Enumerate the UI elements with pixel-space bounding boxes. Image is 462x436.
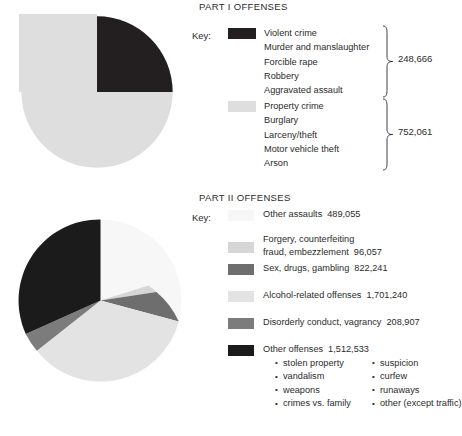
part-one-key-label: Key: [192, 30, 211, 41]
part-one-pie-svg [19, 14, 175, 170]
legend-value: 208,907 [381, 317, 419, 327]
part-two-offenses-panel: PART II OFFENSES Key: Other assaults489,… [0, 190, 456, 436]
legend-item: Burglary [264, 113, 382, 127]
legend-swatch-alcohol-related [228, 291, 254, 302]
legend-items-property: Property crime Burglary Larceny/theft Mo… [264, 99, 382, 170]
part-one-title: PART I OFFENSES [199, 1, 288, 12]
legend-row-disorderly-conduct: Disorderly conduct, vagrancy208,907 [228, 316, 456, 343]
legend-value: 96,057 [349, 247, 382, 257]
legend-item: Larceny/theft [264, 128, 382, 142]
legend-items-violent: Violent crime Murder and manslaughter Fo… [264, 26, 382, 97]
legend-label-line1: Forgery, counterfeiting [263, 234, 354, 244]
sublist-item: curfew [372, 370, 462, 384]
legend-item: Arson [264, 156, 382, 170]
part-one-pie-chart [19, 14, 175, 170]
legend-swatch-property-crime [228, 101, 256, 112]
legend-total-violent: 248,666 [398, 53, 432, 64]
legend-item: Property crime [264, 99, 382, 113]
legend-row-other-offenses: Other offenses1,512,533 stolen property … [228, 343, 456, 411]
legend-swatch-disorderly-conduct [228, 318, 254, 329]
legend-label-line2: fraud, embezzlement [263, 247, 349, 257]
legend-swatch-violent-crime [228, 28, 256, 39]
legend-value: 1,512,533 [323, 344, 369, 354]
legend-swatch-forgery [228, 242, 254, 253]
legend-row-other-assaults: Other assaults489,055 [228, 208, 456, 233]
legend-total-property: 752,061 [398, 126, 432, 137]
brace-violent [382, 25, 393, 98]
legend-label: Sex, drugs, gambling [263, 263, 349, 273]
legend-row-sex-drugs-gambling: Sex, drugs, gambling822,241 [228, 262, 456, 289]
part-two-key-label: Key: [192, 212, 211, 223]
legend-value: 489,055 [322, 209, 360, 219]
legend-value: 1,701,240 [361, 290, 407, 300]
legend-label: Disorderly conduct, vagrancy [263, 317, 381, 327]
legend-swatch-sex-drugs-gambling [228, 264, 254, 275]
legend-value: 822,241 [349, 263, 387, 273]
part-two-legend: Other assaults489,055 Forgery, counterfe… [228, 208, 456, 411]
legend-swatch-other-offenses [228, 345, 254, 356]
legend-item: Robbery [264, 69, 382, 83]
legend-row-forgery: Forgery, counterfeiting fraud, embezzlem… [228, 233, 456, 262]
part-two-pie-svg [17, 217, 184, 384]
legend-item: Violent crime [264, 26, 382, 40]
sublist-item: other (except traffic) [372, 397, 462, 411]
legend-item: Murder and manslaughter [264, 40, 382, 54]
legend-label: Alcohol-related offenses [263, 290, 361, 300]
part-two-pie-chart [17, 217, 184, 384]
sublist-item: crimes vs. family [275, 397, 372, 411]
part-one-offenses-panel: PART I OFFENSES Key: Violent crime Murde… [0, 0, 456, 190]
sublist-item: vandalism [275, 370, 372, 384]
part-two-title: PART II OFFENSES [199, 192, 291, 203]
sublist-item: stolen property [275, 357, 372, 371]
brace-property [382, 98, 393, 171]
legend-item: Motor vehicle theft [264, 142, 382, 156]
sublist-item: weapons [275, 384, 372, 398]
sublist-item: runaways [372, 384, 462, 398]
other-offenses-sublist: stolen property suspicion vandalism curf… [275, 357, 456, 411]
legend-row-alcohol-related: Alcohol-related offenses1,701,240 [228, 289, 456, 316]
legend-label: Other assaults [263, 209, 322, 219]
legend-label: Other offenses [263, 344, 323, 354]
legend-item: Forcible rape [264, 55, 382, 69]
legend-item: Aggravated assault [264, 83, 382, 97]
sublist-item: suspicion [372, 357, 462, 371]
legend-swatch-other-assaults [228, 210, 254, 221]
